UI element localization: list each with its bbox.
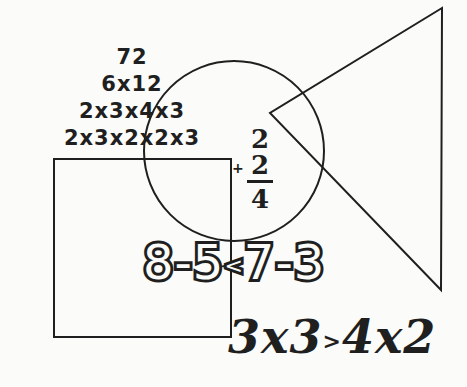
factor-line-2: 6x12 xyxy=(24,71,240,98)
comparison-2-left: 3x3 xyxy=(228,310,322,364)
greater-than-sign: > xyxy=(322,328,341,354)
fraction-denominator: 4 xyxy=(245,186,275,212)
comparison-greater-than: 3x3>4x2 xyxy=(228,309,436,369)
plus-sign: + xyxy=(232,160,244,176)
fraction-top-number: 2 xyxy=(245,126,275,152)
fraction-numerator: 2 xyxy=(245,152,275,178)
comparison-1-right: 7-3 xyxy=(244,234,325,290)
factor-line-1: 72 xyxy=(24,44,240,71)
factor-line-4: 2x3x2x2x3 xyxy=(24,125,240,152)
comparison-less-than: 8-5<7-3 xyxy=(143,236,325,292)
factor-tree: 72 6x12 2x3x4x3 2x3x2x2x3 xyxy=(24,44,240,152)
fraction-bar xyxy=(247,180,273,183)
comparison-1-left: 8-5 xyxy=(143,234,224,290)
fraction-sum: 2 2 4 xyxy=(245,126,275,212)
comparison-2-right: 4x2 xyxy=(342,310,436,364)
less-than-sign: < xyxy=(224,253,243,278)
factor-line-3: 2x3x4x3 xyxy=(24,98,240,125)
